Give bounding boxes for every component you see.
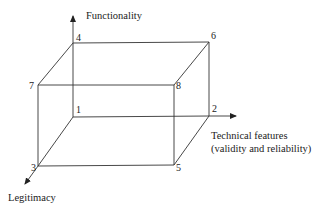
vertex-label-7: 7 [29,80,34,91]
vertex-label-1: 1 [76,104,81,115]
vertex-label-3: 3 [31,162,36,173]
legitimacy-label: Legitimacy [8,192,56,205]
edge-4-7 [38,43,73,85]
edge-6-8 [174,42,209,85]
technical-features-label-line1: Technical features [211,130,288,143]
edge-4-6 [73,42,209,43]
vertex-label-8: 8 [176,80,181,91]
vertex-label-4: 4 [76,32,81,43]
vertex-label-5: 5 [176,162,181,173]
vertex-label-2: 2 [212,103,217,114]
box-diagram [0,0,320,212]
edge-1-2 [73,116,209,117]
technical-features-label-line2: (validity and reliability) [211,143,311,156]
edge-1-3 [38,117,73,166]
edge-2-5 [174,116,209,165]
functionality-label: Functionality [86,10,142,23]
vertex-label-6: 6 [211,30,216,41]
edge-3-5 [38,165,174,166]
